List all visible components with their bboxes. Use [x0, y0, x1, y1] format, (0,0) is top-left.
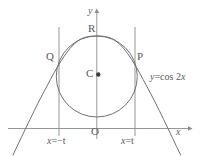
label-x-equals-minus-t: x=−t	[47, 136, 66, 146]
label-x-equals-t: x=t	[121, 136, 134, 146]
label-x-rest-right: =t	[125, 135, 133, 146]
point-label-C: C	[86, 68, 93, 79]
center-point-dot	[96, 72, 100, 76]
label-x-rest-left: =−t	[51, 135, 65, 146]
x-axis	[8, 126, 193, 131]
x-axis-arrow-icon	[188, 126, 193, 131]
point-label-P: P	[137, 51, 143, 62]
geometry-figure: y x O R Q P C x=−t x=t y=cos 2x	[0, 0, 210, 156]
y-axis-arrow-icon	[95, 9, 100, 14]
point-label-Q: Q	[46, 51, 54, 62]
point-label-R: R	[88, 23, 95, 34]
curve-label-x: x	[181, 71, 185, 82]
curve-label-eq: =cos 2	[154, 71, 180, 82]
origin-label: O	[91, 126, 99, 137]
curve-equation-label: y=cos 2x	[150, 72, 185, 82]
x-axis-label: x	[176, 127, 180, 137]
y-axis-label: y	[88, 6, 92, 16]
